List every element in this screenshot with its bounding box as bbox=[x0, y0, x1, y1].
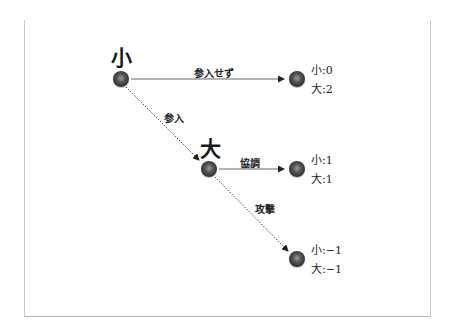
player-label-small: 小 bbox=[111, 47, 132, 68]
player-label-large: 大 bbox=[200, 138, 221, 159]
edge-enter bbox=[126, 87, 199, 160]
payoff-cooperate: 小:1 大:1 bbox=[311, 151, 333, 189]
payoff-stay-out: 小:0 大:2 bbox=[311, 61, 333, 99]
decision-node-large bbox=[201, 161, 217, 177]
edge-attack bbox=[215, 177, 288, 251]
terminal-node-cooperate bbox=[289, 161, 305, 177]
payoff-large: 大:−1 bbox=[311, 260, 342, 279]
edges-layer bbox=[0, 0, 454, 336]
payoff-small: 小:1 bbox=[311, 151, 333, 170]
terminal-node-attack bbox=[289, 251, 305, 267]
action-label-stay-out: 参入せず bbox=[194, 65, 234, 80]
payoff-large: 大:2 bbox=[311, 80, 333, 99]
payoff-small: 小:−1 bbox=[311, 241, 342, 260]
action-label-enter: 参入 bbox=[164, 110, 184, 125]
payoff-large: 大:1 bbox=[311, 170, 333, 189]
action-label-cooperate: 協調 bbox=[240, 155, 260, 170]
action-label-attack: 攻撃 bbox=[255, 201, 275, 216]
decision-node-small bbox=[113, 71, 129, 87]
payoff-attack: 小:−1 大:−1 bbox=[311, 241, 342, 279]
terminal-node-stay-out bbox=[289, 71, 305, 87]
payoff-small: 小:0 bbox=[311, 61, 333, 80]
